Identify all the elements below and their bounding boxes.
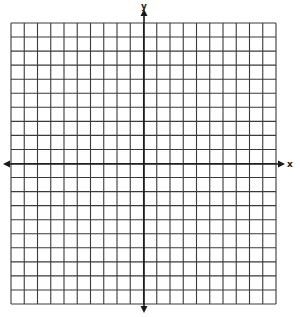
y-axis-label: y — [141, 1, 147, 11]
x-axis-left-arrow-icon — [3, 161, 10, 168]
x-axis-right-arrow-icon — [278, 161, 285, 168]
coordinate-plane: x y — [0, 0, 300, 317]
y-axis-down-arrow-icon — [141, 306, 148, 313]
x-axis-label: x — [287, 159, 293, 169]
